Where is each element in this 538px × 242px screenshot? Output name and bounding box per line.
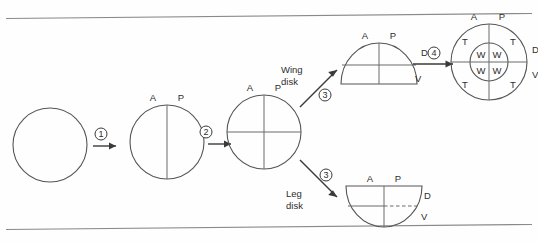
wing-thorax-label-dorsal: D [532, 44, 538, 55]
wing-disk-label-posterior: P [390, 30, 396, 41]
leg-disk-label-ventral: V [421, 211, 428, 222]
ap-disk-label-posterior: P [178, 92, 184, 103]
stage-wing-disk: A P D V [341, 30, 428, 84]
wing-disk-label-line2: disk [281, 76, 298, 87]
step-1-number: 1 [98, 129, 103, 139]
stage-ap-disk: A P [130, 92, 204, 179]
leg-disk-label-line2: disk [286, 200, 303, 211]
leg-disk-label-dorsal: D [424, 190, 431, 201]
wing-region-posterior-dorsal: W [493, 49, 502, 60]
wing-region-posterior-ventral: W [493, 65, 502, 76]
leg-disk-label-posterior: P [395, 173, 401, 184]
stage-wing-thorax-disk: A P D V W W W W T T T T [451, 11, 538, 100]
ap-disk-label-anterior: A [150, 92, 157, 103]
wing-disk-label-anterior: A [362, 30, 369, 41]
diagram-canvas: 1 A P 2 A P 3 Win [0, 0, 538, 242]
arrow-step-2: 2 [200, 126, 231, 147]
wing-disk-label-ventral: V [415, 73, 422, 84]
naive-disk-outline [13, 108, 87, 182]
arrow-1-head [109, 143, 116, 150]
arrow-step-1: 1 [93, 128, 116, 149]
thorax-region-posterior-dorsal: T [510, 36, 516, 47]
arrow-3-wing-head [328, 70, 337, 77]
thorax-region-posterior-ventral: T [510, 79, 516, 90]
thorax-region-anterior-ventral: T [462, 79, 468, 90]
leg-disk-label-anterior: A [367, 173, 374, 184]
arrow-3-wing-shaft [300, 70, 337, 107]
wing-thorax-label-anterior: A [471, 11, 478, 22]
wing-thorax-label-posterior: P [499, 11, 505, 22]
wing-region-anterior-ventral: W [477, 65, 486, 76]
wing-disk-label-dorsal: D [421, 47, 428, 58]
figure-container: 1 A P 2 A P 3 Win [0, 0, 538, 242]
arrow-4-head [446, 60, 454, 67]
step-3-wing-number: 3 [322, 90, 327, 100]
step-3-leg-number: 3 [323, 170, 328, 180]
arrow-step-3-wing: 3 Wing disk [281, 64, 337, 107]
stage-naive-disk [13, 108, 87, 182]
thorax-region-anterior-dorsal: T [462, 36, 468, 47]
quadrant-disk-label-anterior: A [247, 82, 254, 93]
step-2-number: 2 [203, 127, 208, 137]
stage-leg-disk: A P D V [346, 173, 431, 227]
step-4-number: 4 [431, 48, 436, 58]
wing-region-anterior-dorsal: W [477, 49, 486, 60]
leg-disk-label-line1: Leg [286, 188, 302, 199]
arrow-3-leg-head [328, 190, 337, 197]
page-rule-top [6, 14, 532, 19]
page-rule-bottom [6, 225, 532, 230]
wing-thorax-label-ventral: V [532, 69, 538, 80]
arrow-step-4: 4 [413, 47, 453, 68]
stage-quadrant-disk: A P [227, 82, 301, 169]
wing-disk-label-line1: Wing [281, 64, 303, 75]
arrow-step-3-leg: 3 Leg disk [286, 160, 337, 211]
